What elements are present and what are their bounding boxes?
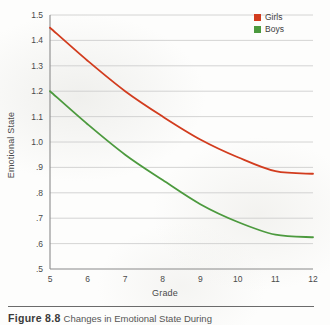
x-tick-label: 8: [153, 274, 173, 284]
chart-legend: Girls Boys: [254, 13, 284, 34]
x-tick-label: 5: [40, 274, 60, 284]
y-tick-label: .6: [19, 239, 43, 249]
legend-label-girls: Girls: [265, 13, 282, 22]
legend-swatch-boys: [254, 26, 261, 33]
x-tick-label: 10: [228, 274, 248, 284]
legend-swatch-girls: [254, 14, 261, 21]
x-tick-label: 6: [78, 274, 98, 284]
series-line-boys: [50, 91, 313, 237]
legend-item-girls: Girls: [254, 13, 284, 22]
legend-label-boys: Boys: [265, 25, 284, 34]
series-line-girls: [50, 28, 313, 174]
figure-caption-text: Changes in Emotional State During: [64, 313, 212, 324]
x-tick-label: 11: [265, 274, 285, 284]
figure-container: Emotional State Grade 1.51.41.31.21.11.0…: [0, 0, 330, 325]
y-tick-label: 1.1: [19, 112, 43, 122]
series-paths-group: [50, 28, 313, 238]
y-tick-label: 1.3: [19, 61, 43, 71]
legend-item-boys: Boys: [254, 25, 284, 34]
y-tick-label: 1.4: [19, 35, 43, 45]
gridlines-group: [50, 40, 313, 243]
y-tick-label: .9: [19, 162, 43, 172]
figure-number: Figure 8.8: [8, 312, 61, 324]
x-tick-label: 12: [303, 274, 323, 284]
y-tick-label: 1.5: [19, 10, 43, 20]
y-tick-label: .7: [19, 213, 43, 223]
y-tick-label: 1.2: [19, 86, 43, 96]
y-tick-label: 1.0: [19, 137, 43, 147]
y-tick-label: .5: [19, 264, 43, 274]
figure-caption: Figure 8.8 Changes in Emotional State Du…: [8, 312, 328, 325]
x-tick-label: 7: [115, 274, 135, 284]
caption-divider: [8, 306, 314, 307]
y-tick-label: .8: [19, 188, 43, 198]
x-tick-label: 9: [190, 274, 210, 284]
y-axis-title: Emotional State: [6, 100, 16, 190]
x-axis-title: Grade: [0, 288, 330, 298]
